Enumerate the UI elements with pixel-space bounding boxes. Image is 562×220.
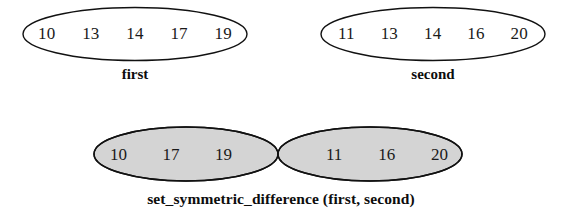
set-label-second: second bbox=[320, 66, 546, 83]
set-member: 19 bbox=[215, 145, 232, 165]
venn-caption: set_symmetric_difference (first, second) bbox=[0, 190, 562, 208]
set-members-second: 11 13 14 16 20 bbox=[338, 25, 528, 42]
set-diagram-second: 11 13 14 16 20 bbox=[320, 6, 546, 62]
set-member: 10 bbox=[110, 145, 127, 165]
set-member: 17 bbox=[170, 25, 187, 42]
set-member: 10 bbox=[38, 25, 55, 42]
set-member: 14 bbox=[126, 25, 143, 42]
set-diagram-first: 10 13 14 17 19 bbox=[22, 6, 248, 62]
set-member: 16 bbox=[378, 145, 395, 165]
venn-svg bbox=[0, 118, 562, 190]
set-member: 17 bbox=[163, 145, 180, 165]
set-members-first: 10 13 14 17 19 bbox=[38, 25, 232, 42]
set-operation-figure: 10 13 14 17 19 first 11 13 14 16 20 seco… bbox=[0, 0, 562, 220]
set-member: 19 bbox=[215, 25, 232, 42]
set-member: 20 bbox=[511, 25, 528, 42]
set-member: 13 bbox=[82, 25, 99, 42]
set-member: 11 bbox=[338, 25, 355, 42]
set-member: 20 bbox=[431, 145, 448, 165]
set-member: 13 bbox=[381, 25, 398, 42]
venn-members-second-only: 11 16 20 bbox=[326, 145, 448, 165]
venn-diagram: 10 17 19 11 16 20 set_symmetric_differen… bbox=[0, 118, 562, 220]
set-member: 14 bbox=[424, 25, 441, 42]
set-label-first: first bbox=[22, 66, 248, 83]
set-member: 11 bbox=[326, 145, 342, 165]
venn-members-first-only: 10 17 19 bbox=[110, 145, 232, 165]
set-member: 16 bbox=[467, 25, 484, 42]
